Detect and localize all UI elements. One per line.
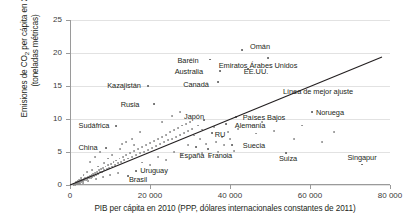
annotation-label: Brasil: [129, 175, 147, 184]
y-tick-label: 25: [38, 15, 62, 24]
scatter-chart: Emisiones de CO2 per cápita en 2010 (ton…: [0, 0, 419, 224]
y-axis-label-line1: Emisiones de CO2 per cápita en 2010: [20, 0, 29, 117]
annotation-label: Noruega: [316, 107, 344, 116]
annotation-label: Rusia: [121, 99, 140, 108]
annotation-label: Kazajistán: [107, 81, 141, 90]
x-tick-label: 0: [40, 191, 100, 200]
annotation-label: España: [180, 151, 205, 160]
y-tick-label: 10: [38, 114, 62, 123]
annotation-label: Canadá: [183, 80, 209, 89]
annotation-label: EE.UU.: [244, 67, 268, 76]
x-axis-label: PIB per cápita en 2010 (PPP, dólares int…: [40, 204, 410, 213]
annotation-label: RU: [215, 129, 226, 138]
best-fit-line: [70, 20, 390, 185]
x-tick-label: 40 000: [200, 191, 260, 200]
annotation-label: China: [78, 143, 97, 152]
x-tick-mark: [150, 185, 151, 189]
x-tick-label: 20 000: [120, 191, 180, 200]
annotation-label: Omán: [250, 42, 270, 51]
x-tick-label: 80 000: [360, 191, 419, 200]
annotation-label: Australia: [175, 66, 203, 75]
x-tick-mark: [310, 185, 311, 189]
y-tick-label: 0: [38, 180, 62, 189]
annotation-label: Japón: [184, 111, 204, 120]
y-tick-label: 15: [38, 81, 62, 90]
x-tick-mark: [70, 185, 71, 189]
y-tick-label: 20: [38, 48, 62, 57]
x-tick-mark: [230, 185, 231, 189]
x-tick-mark: [390, 185, 391, 189]
annotation-label: Alemania: [235, 120, 265, 129]
annotation-label: Baréin: [177, 55, 198, 64]
plot-area: OmánBaréinEmiratos Árabes UnidosAustrali…: [70, 20, 390, 185]
annotation-label: Francia: [208, 151, 232, 160]
annotation-label: Línea de mejor ajuste: [283, 87, 353, 96]
annotation-label: Suiza: [279, 153, 297, 162]
x-tick-label: 60 000: [280, 191, 340, 200]
annotation-label: Singapur: [347, 153, 376, 162]
annotation-label: Sudáfrica: [79, 120, 110, 129]
y-tick-label: 5: [38, 147, 62, 156]
annotation-label: Suecia: [243, 141, 265, 150]
